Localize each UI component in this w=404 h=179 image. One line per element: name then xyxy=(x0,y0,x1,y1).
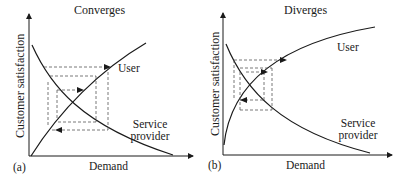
arrowheads xyxy=(240,57,287,103)
y-axis-label: Customer satisfaction xyxy=(208,32,223,136)
panel-b-diverges: Diverges Customer satisfaction User Serv… xyxy=(200,0,404,179)
cobweb-path xyxy=(234,60,283,110)
panel-label: (a) xyxy=(13,161,26,173)
panel-label: (b) xyxy=(208,159,221,171)
panel-a-plot xyxy=(0,0,200,179)
panel-title: Diverges xyxy=(284,4,327,16)
provider-label-line2: provider xyxy=(334,129,382,141)
provider-label-line1: Service xyxy=(130,118,170,130)
panel-title: Converges xyxy=(74,4,125,16)
provider-label-line1: Service xyxy=(338,117,378,129)
arrow-left-icon xyxy=(240,97,247,103)
panel-b-plot xyxy=(200,0,404,179)
y-axis-label: Customer satisfaction xyxy=(13,34,28,138)
x-axis-label: Demand xyxy=(89,160,128,172)
panel-a-converges: Converges Customer satisfaction User Ser… xyxy=(0,0,200,179)
provider-label-line2: provider xyxy=(126,130,174,142)
x-axis-label: Demand xyxy=(286,159,325,171)
user-label: User xyxy=(337,41,359,53)
user-label: User xyxy=(118,62,140,74)
arrow-left-icon xyxy=(55,127,62,133)
